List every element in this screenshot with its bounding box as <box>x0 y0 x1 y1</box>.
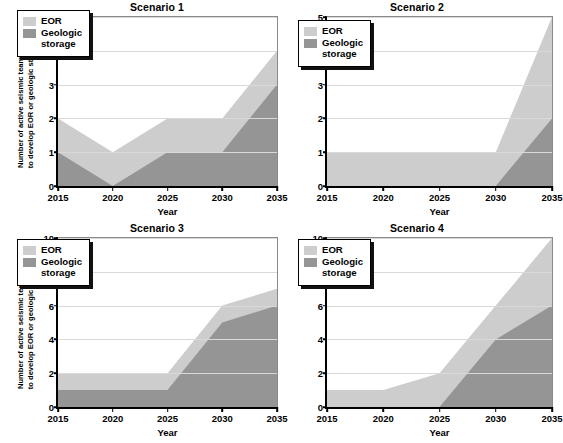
area-series-svg <box>58 238 277 407</box>
y-tick-label: 6 <box>318 300 323 311</box>
x-axis-title: Year <box>327 206 552 217</box>
x-tick-mark <box>495 407 497 412</box>
legend-label-geologic-storage: Geologic storage <box>41 256 82 278</box>
legend-swatch-eor <box>304 246 317 255</box>
chart-legend: EOR Geologic storage <box>17 10 90 57</box>
grid-line <box>58 17 277 18</box>
grid-line <box>58 51 277 52</box>
chart-legend: EOR Geologic storage <box>17 239 90 286</box>
x-tick-mark <box>112 186 114 191</box>
x-tick-mark <box>551 186 553 191</box>
x-tick-label: 2015 <box>47 413 68 424</box>
x-tick-label: 2030 <box>485 192 506 203</box>
legend-item-eor: EOR <box>23 15 82 26</box>
x-tick-label: 2020 <box>102 413 123 424</box>
y-tick-mark <box>54 339 58 341</box>
y-tick-label: 3 <box>318 79 323 90</box>
legend-swatch-eor <box>304 27 317 36</box>
x-tick-label: 2030 <box>212 413 233 424</box>
x-tick-label: 2025 <box>429 192 450 203</box>
y-tick-label: 1 <box>49 147 54 158</box>
legend-label-eor: EOR <box>322 25 343 36</box>
y-tick-label: 2 <box>49 113 54 124</box>
x-tick-mark <box>382 407 384 412</box>
x-tick-mark <box>167 407 169 412</box>
grid-line <box>327 17 552 18</box>
x-tick-label: 2015 <box>316 192 337 203</box>
legend-item-eor: EOR <box>304 25 363 36</box>
y-tick-label: 2 <box>49 368 54 379</box>
legend-item-eor: EOR <box>23 244 82 255</box>
panel-title: Scenario 4 <box>281 222 561 234</box>
legend-swatch-geologic-storage <box>23 258 36 267</box>
x-tick-label: 2015 <box>316 413 337 424</box>
y-tick-mark <box>54 372 58 374</box>
x-tick-label: 2025 <box>429 413 450 424</box>
legend-item-geologic-storage: Geologic storage <box>304 37 363 59</box>
chart-legend: EOR Geologic storage <box>298 239 371 286</box>
y-tick-mark <box>323 372 327 374</box>
grid-line <box>327 85 552 86</box>
x-tick-mark <box>326 186 328 191</box>
x-tick-mark <box>221 186 223 191</box>
grid-line <box>327 118 552 119</box>
grid-line <box>327 306 552 307</box>
y-tick-mark <box>323 151 327 153</box>
grid-line <box>58 118 277 119</box>
y-tick-mark <box>323 16 327 18</box>
legend-item-eor: EOR <box>304 244 363 255</box>
legend-item-geologic-storage: Geologic storage <box>304 256 363 278</box>
chart-panel-scenario-3: Scenario 3 Number of active seismic team… <box>0 221 280 442</box>
x-tick-label: 2025 <box>157 192 178 203</box>
chart-panel-scenario-1: Scenario 1 Number of active seismic team… <box>0 0 280 221</box>
x-tick-mark <box>57 407 59 412</box>
x-tick-label: 2030 <box>485 413 506 424</box>
grid-line <box>327 373 552 374</box>
grid-line <box>327 339 552 340</box>
x-tick-label: 2020 <box>102 192 123 203</box>
x-tick-mark <box>439 407 441 412</box>
x-tick-mark <box>326 407 328 412</box>
chart-legend: EOR Geologic storage <box>298 20 371 67</box>
y-tick-label: 4 <box>318 334 323 345</box>
area-series-svg <box>58 17 277 186</box>
legend-item-geologic-storage: Geologic storage <box>23 256 82 278</box>
grid-line <box>58 238 277 239</box>
y-tick-label: 1 <box>318 147 323 158</box>
x-tick-mark <box>276 186 278 191</box>
y-tick-mark <box>54 151 58 153</box>
y-tick-mark <box>54 118 58 120</box>
legend-swatch-eor <box>23 246 36 255</box>
y-tick-label: 4 <box>49 334 54 345</box>
grid-line <box>58 152 277 153</box>
legend-swatch-eor <box>23 17 36 26</box>
x-tick-mark <box>57 186 59 191</box>
legend-label-eor: EOR <box>322 244 343 255</box>
chart-panel-scenario-2: Scenario 2 Year 012345201520202025203020… <box>281 0 561 221</box>
x-tick-mark <box>167 186 169 191</box>
x-axis-title: Year <box>58 206 277 217</box>
legend-label-eor: EOR <box>41 15 62 26</box>
y-tick-mark <box>323 305 327 307</box>
x-tick-label: 2020 <box>373 192 394 203</box>
y-tick-mark <box>54 84 58 86</box>
grid-line <box>58 373 277 374</box>
x-tick-mark <box>112 407 114 412</box>
grid-line <box>58 272 277 273</box>
x-tick-mark <box>439 186 441 191</box>
x-tick-label: 2035 <box>541 413 562 424</box>
grid-line <box>327 152 552 153</box>
y-tick-label: 0 <box>49 402 54 413</box>
y-tick-mark <box>323 339 327 341</box>
x-axis-title: Year <box>327 427 552 438</box>
x-tick-label: 2030 <box>212 192 233 203</box>
legend-swatch-geologic-storage <box>304 39 317 48</box>
y-tick-label: 0 <box>318 402 323 413</box>
x-tick-mark <box>382 186 384 191</box>
x-tick-label: 2025 <box>157 413 178 424</box>
x-tick-mark <box>221 407 223 412</box>
grid-line <box>58 306 277 307</box>
legend-label-geologic-storage: Geologic storage <box>41 27 82 49</box>
x-tick-label: 2020 <box>373 413 394 424</box>
